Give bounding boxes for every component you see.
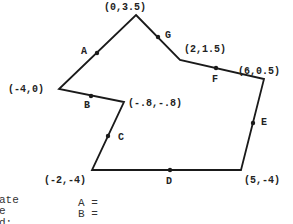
midpoint-dot-c xyxy=(106,134,110,138)
note-left-line-3: d: xyxy=(0,217,12,224)
note-left-line-2: e xyxy=(0,205,6,217)
vertex-label-5--4: (5,-4) xyxy=(244,175,280,186)
vertex-label-6-0.5: (6,0.5) xyxy=(238,66,280,77)
midpoint-label-c: C xyxy=(118,132,124,143)
midpoint-label-d: D xyxy=(166,176,172,187)
midpoint-label-a: A xyxy=(81,46,87,57)
midpoint-label-g: G xyxy=(165,30,171,41)
midpoint-label-b: B xyxy=(84,100,90,111)
midpoint-dot-f xyxy=(214,66,218,70)
vertex-label--.8--.8: (-.8,-.8) xyxy=(128,98,182,109)
midpoint-dot-a xyxy=(95,51,99,55)
vertex-label-2-1.5: (2,1.5) xyxy=(184,44,226,55)
vertex-label-top: (0,3.5) xyxy=(104,2,146,13)
midpoint-dot-d xyxy=(168,168,172,172)
vertex-label--2--4: (-2,-4) xyxy=(44,175,86,186)
midpoint-dot-b xyxy=(89,94,93,98)
midpoint-label-f: F xyxy=(212,74,218,85)
polygon-diagram: (0,3.5) (2,1.5) (6,0.5) (5,-4) (-2,-4) (… xyxy=(0,0,293,224)
polygon-outline xyxy=(59,15,264,170)
midpoint-dot-g xyxy=(156,35,160,39)
answer-b-label: B = xyxy=(78,208,98,220)
midpoint-dot-e xyxy=(251,121,255,125)
vertex-label--4-0: (-4,0) xyxy=(8,84,44,95)
midpoint-label-e: E xyxy=(261,117,267,128)
